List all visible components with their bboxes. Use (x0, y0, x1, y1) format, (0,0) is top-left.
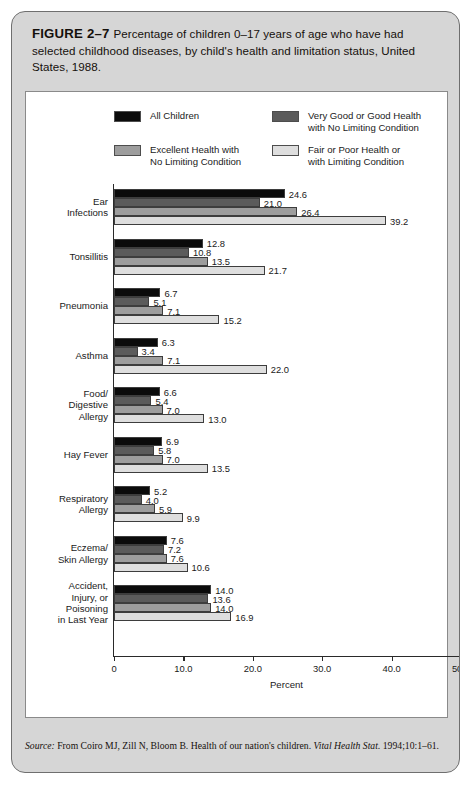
bar[interactable] (114, 545, 164, 554)
bar-value-label: 6.3 (162, 338, 175, 347)
bar[interactable] (114, 594, 208, 603)
source-text-after: 1994;10:1–61. (380, 740, 439, 751)
bar-group: Accident,Injury, orPoisoningin Last Year… (26, 585, 449, 621)
chart-panel: All Children Very Good or Good Healthwit… (25, 91, 448, 718)
bar[interactable] (114, 266, 265, 275)
bar[interactable] (114, 248, 189, 257)
bar-group: Pneumonia6.75.17.115.2 (26, 288, 449, 324)
x-tick-1 (183, 656, 184, 661)
source-note: Source: From Coiro MJ, Zill N, Bloom B. … (25, 728, 448, 762)
bar-group: Food/DigestiveAllergy6.65.47.013.0 (26, 387, 449, 423)
category-label: EarInfections (20, 196, 108, 219)
category-label: Hay Fever (20, 449, 108, 460)
x-tick-label-1: 10.0 (174, 663, 192, 674)
x-tick-4 (392, 656, 393, 661)
bar[interactable] (114, 315, 219, 324)
figure-number: FIGURE 2–7 (32, 26, 110, 41)
x-tick-label-3: 30.0 (313, 663, 331, 674)
source-text-before: From Coiro MJ, Zill N, Bloom B. Health o… (55, 740, 314, 751)
bar-value-label: 15.2 (223, 316, 241, 325)
legend-swatch-very-good-or-good-health (272, 111, 299, 122)
legend-item-fair-or-poor-health[interactable]: Fair or Poor Health orwith Limiting Cond… (272, 144, 444, 167)
bar[interactable] (114, 486, 150, 495)
bar-value-label: 16.9 (235, 613, 253, 622)
x-axis-title: Percent (113, 679, 460, 690)
bar[interactable] (114, 603, 211, 612)
bar-value-label: 13.5 (212, 464, 230, 473)
bar[interactable] (114, 495, 142, 504)
bar-value-label: 6.7 (164, 289, 177, 298)
bar[interactable] (114, 216, 386, 225)
category-label: Pneumonia (20, 300, 108, 311)
legend-item-all-children[interactable]: All Children (114, 110, 272, 133)
bar-value-label: 10.6 (192, 563, 210, 572)
x-tick-2 (253, 656, 254, 661)
bar[interactable] (114, 464, 208, 473)
x-tick-3 (322, 656, 323, 661)
bar[interactable] (114, 189, 285, 198)
legend-label-fair-or-poor-health: Fair or Poor Health orwith Limiting Cond… (308, 144, 404, 167)
legend-swatch-excellent-health (114, 145, 141, 156)
bar-value-label: 24.6 (289, 190, 307, 199)
bar[interactable] (114, 513, 183, 522)
bar-group: Tonsillitis12.810.813.521.7 (26, 239, 449, 275)
bar-group: RespiratoryAllergy5.24.05.99.9 (26, 486, 449, 522)
x-tick-label-5: 50.0 (452, 663, 460, 674)
bar[interactable] (114, 288, 160, 297)
bar[interactable] (114, 455, 163, 464)
bar-value-label: 39.2 (390, 217, 408, 226)
source-journal: Vital Health Stat. (314, 740, 381, 751)
plot-area: 010.020.030.040.050.0 Percent EarInfecti… (26, 184, 449, 719)
category-label: Asthma (20, 350, 108, 361)
bar[interactable] (114, 257, 208, 266)
bar[interactable] (114, 563, 188, 572)
legend-item-excellent-health[interactable]: Excellent Health withNo Limiting Conditi… (114, 144, 272, 167)
bar[interactable] (114, 437, 162, 446)
bar-group: Asthma6.33.47.122.0 (26, 338, 449, 374)
bar[interactable] (114, 554, 167, 563)
legend-row-1: All Children Very Good or Good Healthwit… (114, 110, 444, 133)
bar[interactable] (114, 414, 204, 423)
bar-group: Eczema/Skin Allergy7.67.27.610.6 (26, 536, 449, 572)
x-axis-line (113, 656, 460, 657)
legend-row-2: Excellent Health withNo Limiting Conditi… (114, 144, 444, 167)
bar-value-label: 9.9 (187, 514, 200, 523)
legend-label-all-children: All Children (150, 110, 199, 122)
legend-item-very-good-or-good-health[interactable]: Very Good or Good Healthwith No Limiting… (272, 110, 444, 133)
bar[interactable] (114, 387, 160, 396)
bar[interactable] (114, 347, 138, 356)
legend-swatch-all-children (114, 111, 141, 122)
source-label: Source: (25, 740, 55, 751)
bar-group: EarInfections24.621.026.439.2 (26, 189, 449, 225)
bar-value-label: 22.0 (271, 365, 289, 374)
legend-swatch-fair-or-poor-health (272, 145, 299, 156)
bar[interactable] (114, 356, 163, 365)
chart-legend: All Children Very Good or Good Healthwit… (114, 110, 444, 178)
bar[interactable] (114, 239, 203, 248)
bar[interactable] (114, 396, 151, 405)
bar[interactable] (114, 297, 149, 306)
bar-group: Hay Fever6.95.87.013.5 (26, 437, 449, 473)
bar[interactable] (114, 585, 211, 594)
bar[interactable] (114, 198, 260, 207)
category-label: Accident,Injury, orPoisoningin Last Year (20, 580, 108, 626)
bar[interactable] (114, 612, 231, 621)
legend-label-excellent-health: Excellent Health withNo Limiting Conditi… (150, 144, 241, 167)
x-tick-label-0: 0 (111, 663, 116, 674)
bar-value-label: 21.7 (269, 266, 287, 275)
bar[interactable] (114, 365, 267, 374)
category-label: RespiratoryAllergy (20, 493, 108, 516)
x-tick-label-4: 40.0 (382, 663, 400, 674)
bar-value-label: 13.0 (208, 415, 226, 424)
bar[interactable] (114, 306, 163, 315)
bar[interactable] (114, 405, 163, 414)
bar[interactable] (114, 504, 155, 513)
category-label: Tonsillitis (20, 251, 108, 262)
figure-caption: FIGURE 2–7Percentage of children 0–17 ye… (12, 12, 459, 86)
bar[interactable] (114, 536, 167, 545)
x-tick-0 (114, 656, 115, 661)
category-label: Eczema/Skin Allergy (20, 542, 108, 565)
bar[interactable] (114, 207, 297, 216)
category-label: Food/DigestiveAllergy (20, 388, 108, 422)
bar[interactable] (114, 446, 154, 455)
